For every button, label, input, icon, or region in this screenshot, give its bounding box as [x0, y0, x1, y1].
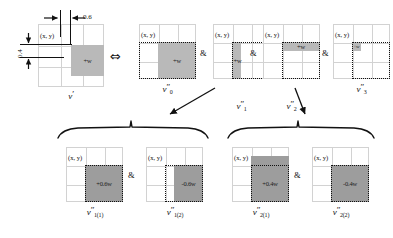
conjunction-icon-1: & [200, 48, 207, 58]
dotted-region-v1-2 [165, 165, 203, 202]
dotted-region-v2-2 [331, 165, 369, 202]
conjunction-icon-2: & [250, 48, 257, 58]
dim-v-rule-bottom [20, 57, 64, 58]
caption-v3: v″3 [333, 82, 390, 95]
caption-v2: v″2 [263, 99, 320, 112]
dotted-region-v0 [139, 42, 196, 79]
caption-v2-2: v″2(2) [306, 205, 376, 218]
dotted-region-v2-1 [251, 165, 289, 202]
dotted-region-v2 [282, 42, 320, 79]
dim-v-label: 0.4 [16, 49, 24, 58]
source-weight-label: +w [84, 57, 92, 64]
conjunction-icon-4: & [128, 170, 135, 180]
grid-line-v [61, 25, 62, 86]
coord-tag-v3: (x, y) [335, 31, 349, 38]
source-caption-prime: ′ [72, 89, 73, 99]
equivalence-icon: ⇔ [110, 50, 121, 63]
dim-h-tick-right [70, 10, 71, 45]
caption-sub-v1-2: 1(2) [174, 212, 183, 218]
coord-tag-v2-1: (x, y) [234, 154, 248, 161]
caption-v1: v″1 [213, 99, 270, 112]
caption-sub-v1-1: 1(1) [94, 212, 103, 218]
coord-tag-v1-2: (x, y) [148, 154, 162, 161]
dotted-region-v3 [352, 42, 390, 79]
caption-v0: v″0 [139, 82, 196, 95]
conjunction-icon-3: & [322, 48, 329, 58]
caption-v1-2: v″1(2) [140, 205, 210, 218]
dim-h-label: 0.6 [83, 13, 92, 21]
caption-sub-v2-1: 2(1) [260, 212, 269, 218]
coord-tag-v1-1: (x, y) [68, 154, 82, 161]
caption-sub-v0: 0 [170, 89, 173, 95]
caption-v1-1: v″1(1) [60, 205, 130, 218]
source-caption: v′ [38, 89, 104, 101]
coord-tag-v1: (x, y) [215, 31, 229, 38]
conjunction-icon-5: & [294, 170, 301, 180]
caption-v2-1: v″2(1) [226, 205, 296, 218]
coord-tag-v2-2: (x, y) [314, 154, 328, 161]
caption-sub-v1: 1 [244, 106, 247, 112]
caption-sub-v2-2: 2(2) [340, 212, 349, 218]
dim-h-tick-left [60, 10, 61, 37]
dim-v-rule-top [20, 44, 72, 45]
caption-sub-v2: 2 [294, 106, 297, 112]
source-coord-tag: (x, y) [40, 32, 54, 39]
coord-tag-v0: (x, y) [141, 31, 155, 38]
caption-sub-v3: 3 [364, 89, 367, 95]
source-weight-block: +w [71, 45, 104, 76]
dotted-region-v1-1 [85, 165, 123, 202]
coord-tag-v2: (x, y) [265, 31, 279, 38]
